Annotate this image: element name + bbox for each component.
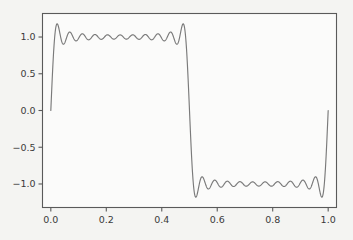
y-tick-label: 1.0 [20, 31, 35, 42]
gibbs-phenomenon-chart: 0.00.20.40.60.81.0 −1.0−0.50.00.51.0 [0, 0, 353, 240]
x-tick-label: 0.2 [99, 214, 114, 225]
x-tick-label: 0.4 [154, 214, 169, 225]
y-tick-label: 0.0 [20, 105, 35, 116]
y-tick-label: −0.5 [12, 142, 35, 153]
x-tick-label: 0.6 [210, 214, 225, 225]
x-tick-label: 1.0 [321, 214, 336, 225]
x-tick-label: 0.0 [43, 214, 58, 225]
x-tick-label: 0.8 [265, 214, 280, 225]
y-tick-label: 0.5 [20, 68, 35, 79]
y-tick-label: −1.0 [12, 178, 35, 189]
